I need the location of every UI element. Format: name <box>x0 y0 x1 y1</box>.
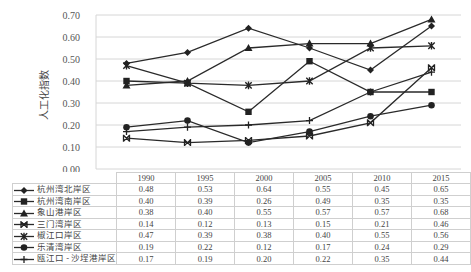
legend-label: 三门湾岸区 <box>37 219 82 229</box>
y-tick-label: 0.30 <box>63 98 81 109</box>
table-cell: 0.26 <box>235 195 294 207</box>
table-cell: 0.19 <box>117 241 176 253</box>
legend-label: 杭州湾北岸区 <box>37 184 91 194</box>
table-cell: 0.15 <box>294 218 353 230</box>
square-marker-icon <box>245 109 251 115</box>
table-cell: 0.39 <box>176 195 235 207</box>
circle-marker-icon <box>184 117 191 124</box>
table-cell: 0.35 <box>412 195 471 207</box>
plus-marker-icon <box>306 117 313 124</box>
table-cell: 0.46 <box>412 218 471 230</box>
table-cell: 0.17 <box>117 253 176 265</box>
square-marker-icon <box>428 89 434 95</box>
line-chart: 0.000.100.200.300.400.500.600.70 人工化指数 <box>0 0 471 172</box>
x-bar-legend-icon <box>13 220 35 229</box>
legend-entry: 三门湾岸区 <box>13 218 117 230</box>
table-cell: 0.12 <box>176 218 235 230</box>
table-cell: 0.20 <box>235 253 294 265</box>
year-header: 1990 <box>117 173 176 184</box>
table-cell: 0.44 <box>412 253 471 265</box>
table-cell: 0.22 <box>176 241 235 253</box>
legend-label: 乐清湾岸区 <box>37 242 82 252</box>
table-cell: 0.21 <box>353 218 412 230</box>
circle-marker-icon <box>428 102 435 109</box>
y-axis-title: 人工化指数 <box>38 70 50 120</box>
table-cell: 0.39 <box>176 230 235 242</box>
table-cell: 0.56 <box>412 230 471 242</box>
table-row: 三门湾岸区0.140.120.130.150.210.46 <box>13 218 471 230</box>
table-cell: 0.45 <box>353 184 412 196</box>
series-3 <box>124 64 435 146</box>
year-header: 2010 <box>353 173 412 184</box>
plus-marker-icon <box>245 122 252 129</box>
table-cell: 0.17 <box>294 241 353 253</box>
square-legend-icon <box>13 197 35 206</box>
legend-entry: 杭州湾南岸区 <box>13 195 117 207</box>
year-header: 2000 <box>235 173 294 184</box>
y-tick-label: 0.00 <box>63 164 81 173</box>
table-cell: 0.29 <box>412 241 471 253</box>
circle-marker-icon <box>245 139 252 146</box>
star-legend-icon <box>13 232 35 241</box>
table-cell: 0.12 <box>235 241 294 253</box>
triangle-legend-icon <box>13 209 35 218</box>
table-cell: 0.13 <box>235 218 294 230</box>
table-cell: 0.65 <box>412 184 471 196</box>
y-tick-label: 0.60 <box>63 32 81 43</box>
legend-entry: 乐清湾岸区 <box>13 241 117 253</box>
table-row: 乐清湾岸区0.190.220.120.170.240.29 <box>13 241 471 253</box>
data-table: 199019952000200520102015杭州湾北岸区0.480.530.… <box>12 172 471 265</box>
table-row: 杭州湾南岸区0.400.390.260.490.350.35 <box>13 195 471 207</box>
table-cell: 0.68 <box>412 207 471 219</box>
table-cell: 0.22 <box>294 253 353 265</box>
legend-label: 椒江口岸区 <box>37 230 82 240</box>
table-cell: 0.57 <box>353 207 412 219</box>
table-cell: 0.40 <box>176 207 235 219</box>
legend-label: 瓯江口 - 沙埕港岸区 <box>37 253 116 263</box>
table-cell: 0.40 <box>294 230 353 242</box>
table-cell: 0.64 <box>235 184 294 196</box>
table-cell: 0.35 <box>353 195 412 207</box>
table-cell: 0.49 <box>294 195 353 207</box>
y-axis-ticks: 0.000.100.200.300.400.500.600.70 <box>63 10 81 173</box>
table-cell: 0.57 <box>294 207 353 219</box>
table-cell: 0.48 <box>117 184 176 196</box>
legend-label: 象山港岸区 <box>37 207 82 217</box>
legend-label: 杭州湾南岸区 <box>37 196 91 206</box>
table-cell: 0.55 <box>353 230 412 242</box>
year-header: 2015 <box>412 173 471 184</box>
diamond-legend-icon <box>13 186 35 195</box>
circle-legend-icon <box>13 243 35 252</box>
table-cell: 0.53 <box>176 184 235 196</box>
table-cell: 0.35 <box>353 253 412 265</box>
table-cell: 0.19 <box>176 253 235 265</box>
plus-legend-icon <box>13 255 35 264</box>
table-cell: 0.55 <box>235 207 294 219</box>
y-tick-label: 0.10 <box>63 142 81 153</box>
table-row: 椒江口岸区0.470.390.380.400.550.56 <box>13 230 471 242</box>
table-row: 杭州湾北岸区0.480.530.640.550.450.65 <box>13 184 471 196</box>
diamond-marker-icon <box>184 49 191 56</box>
table-cell: 0.47 <box>117 230 176 242</box>
table-cell: 0.38 <box>117 207 176 219</box>
year-header: 2005 <box>294 173 353 184</box>
y-tick-label: 0.20 <box>63 120 81 131</box>
circle-marker-icon <box>306 128 313 135</box>
y-tick-label: 0.40 <box>63 76 81 87</box>
y-tick-label: 0.70 <box>63 10 81 21</box>
table-cell: 0.55 <box>294 184 353 196</box>
table-cell: 0.38 <box>235 230 294 242</box>
square-marker-icon <box>306 58 312 64</box>
diamond-marker-icon <box>245 25 252 32</box>
table-cell: 0.40 <box>117 195 176 207</box>
triangle-marker-icon <box>428 15 436 22</box>
series-5 <box>123 102 435 146</box>
legend-entry: 瓯江口 - 沙埕港岸区 <box>13 253 117 265</box>
table-row: 瓯江口 - 沙埕港岸区0.170.190.200.220.350.44 <box>13 253 471 265</box>
legend-entry: 杭州湾北岸区 <box>13 184 117 196</box>
legend-entry: 象山港岸区 <box>13 207 117 219</box>
year-header: 1995 <box>176 173 235 184</box>
y-tick-label: 0.50 <box>63 54 81 65</box>
table-header-row: 199019952000200520102015 <box>13 173 471 184</box>
circle-marker-icon <box>367 113 374 120</box>
